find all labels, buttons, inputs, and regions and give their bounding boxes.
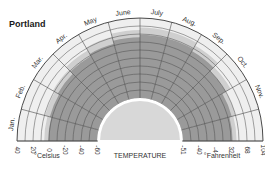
month-label: Nov.: [254, 84, 265, 100]
celsius-tick: -60: [94, 145, 101, 155]
radial-temperature-chart: Jan.Feb.Mar.Apr.MayJuneJulyAug.Sep.Oct.N…: [0, 0, 265, 172]
celsius-tick: 40: [14, 146, 21, 154]
celsius-axis-label: °Celsius: [34, 152, 60, 159]
month-label: Dec.: [264, 116, 265, 131]
celsius-tick: -20: [62, 145, 69, 155]
month-label: Jan.: [7, 117, 16, 131]
fahrenheit-tick: -51: [180, 145, 187, 155]
fahrenheit-tick: 104: [260, 145, 265, 156]
fahrenheit-axis-label: °Fahrenheit: [204, 152, 240, 159]
month-label: Feb.: [14, 84, 26, 100]
month-label: July: [150, 8, 164, 18]
fahrenheit-tick: -40: [196, 145, 203, 155]
month-label: June: [115, 8, 131, 17]
center-label: TEMPERATURE: [114, 152, 167, 159]
celsius-tick: -40: [78, 145, 85, 155]
fahrenheit-tick: 68: [244, 146, 251, 154]
